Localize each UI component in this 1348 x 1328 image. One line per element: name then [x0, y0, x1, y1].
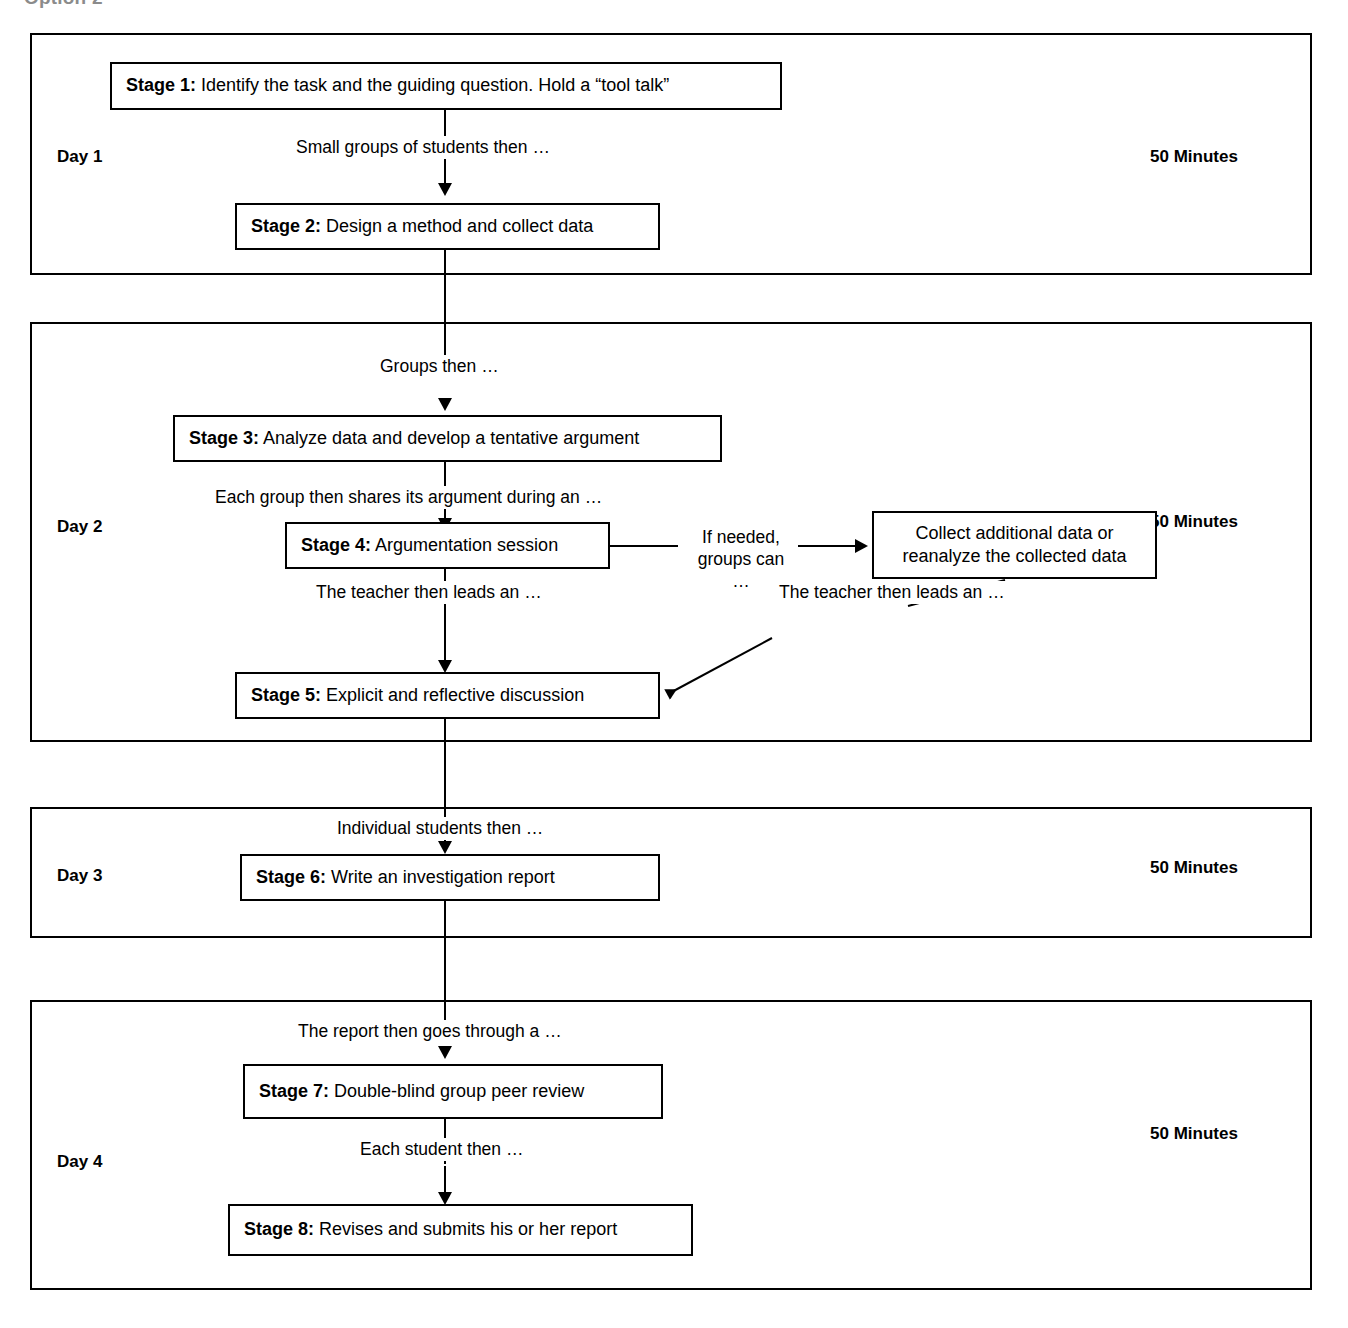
stage-box-2[interactable]: Stage 2: Design a method and collect dat…: [235, 203, 660, 250]
stage-5-body: Explicit and reflective discussion: [321, 685, 584, 705]
flowchart-canvas: Option 2 Day 1 50 Minutes Stage 1: Ident…: [0, 0, 1348, 1328]
stage-4-body: Argumentation session: [371, 535, 558, 555]
branch-label-line1: If needed,: [702, 527, 780, 547]
stage-2-text: Stage 2: Design a method and collect dat…: [237, 215, 607, 238]
stage-1-key: Stage 1:: [126, 75, 196, 95]
stage-4-key: Stage 4:: [301, 535, 371, 555]
stage-3-key: Stage 3:: [189, 428, 259, 448]
side-box-collect-data[interactable]: Collect additional data or reanalyze the…: [872, 511, 1157, 579]
branch-label-line2: groups can …: [698, 549, 785, 591]
connector-label-8: The report then goes through a …: [295, 1020, 565, 1043]
stage-5-text: Stage 5: Explicit and reflective discuss…: [237, 684, 598, 707]
branch-arrowhead-right: [855, 539, 868, 553]
page-title: Option 2: [24, 0, 103, 9]
side-box-line1: Collect additional data or: [915, 523, 1113, 543]
stage-8-body: Revises and submits his or her report: [314, 1219, 617, 1239]
stage-box-8[interactable]: Stage 8: Revises and submits his or her …: [228, 1204, 693, 1256]
day-label-2: Day 2: [57, 517, 102, 537]
stage-box-6[interactable]: Stage 6: Write an investigation report: [240, 854, 660, 901]
stage-2-body: Design a method and collect data: [321, 216, 593, 236]
stage-box-4[interactable]: Stage 4: Argumentation session: [285, 522, 610, 569]
stage-3-text: Stage 3: Analyze data and develop a tent…: [175, 427, 653, 450]
connector-arrowhead-7: [438, 841, 452, 854]
day-label-3: Day 3: [57, 866, 102, 886]
branch-line-left: [610, 545, 678, 547]
stage-4-text: Stage 4: Argumentation session: [287, 534, 572, 557]
minutes-label-2: 50 Minutes: [1150, 512, 1238, 532]
stage-8-text: Stage 8: Revises and submits his or her …: [230, 1218, 631, 1241]
connector-label-1: Small groups of students then …: [293, 136, 553, 159]
stage-5-key: Stage 5:: [251, 685, 321, 705]
stage-1-body: Identify the task and the guiding questi…: [196, 75, 669, 95]
stage-6-text: Stage 6: Write an investigation report: [242, 866, 569, 889]
stage-7-text: Stage 7: Double-blind group peer review: [245, 1080, 598, 1103]
day-panel-3: [30, 807, 1312, 938]
day-label-4: Day 4: [57, 1152, 102, 1172]
connector-label-7: Individual students then …: [334, 817, 546, 840]
connector-arrowhead-8: [438, 1046, 452, 1059]
stage-box-5[interactable]: Stage 5: Explicit and reflective discuss…: [235, 672, 660, 719]
stage-7-body: Double-blind group peer review: [329, 1081, 584, 1101]
connector-line-day1-day2: [444, 250, 446, 370]
stage-1-text: Stage 1: Identify the task and the guidi…: [112, 74, 683, 97]
connector-label-6: The teacher then leads an …: [776, 581, 1008, 604]
connector-label-2: Groups then …: [377, 355, 502, 378]
stage-7-key: Stage 7:: [259, 1081, 329, 1101]
stage-8-key: Stage 8:: [244, 1219, 314, 1239]
minutes-label-3: 50 Minutes: [1150, 858, 1238, 878]
stage-box-1[interactable]: Stage 1: Identify the task and the guidi…: [110, 62, 782, 110]
stage-box-3[interactable]: Stage 3: Analyze data and develop a tent…: [173, 415, 722, 462]
side-box-text: Collect additional data or reanalyze the…: [874, 522, 1155, 568]
stage-6-key: Stage 6:: [256, 867, 326, 887]
minutes-label-1: 50 Minutes: [1150, 147, 1238, 167]
connector-label-5: The teacher then leads an …: [313, 581, 545, 604]
stage-6-body: Write an investigation report: [326, 867, 555, 887]
side-box-line2: reanalyze the collected data: [902, 546, 1126, 566]
stage-box-7[interactable]: Stage 7: Double-blind group peer review: [243, 1064, 663, 1119]
connector-line-day3-day4: [444, 901, 446, 1035]
connector-label-9: Each student then …: [357, 1138, 526, 1161]
minutes-label-4: 50 Minutes: [1150, 1124, 1238, 1144]
branch-line-right: [795, 545, 857, 547]
connector-arrowhead-1: [438, 183, 452, 196]
connector-label-3: Each group then shares its argument duri…: [212, 486, 605, 509]
connector-arrowhead-2: [438, 398, 452, 411]
stage-2-key: Stage 2:: [251, 216, 321, 236]
day-label-1: Day 1: [57, 147, 102, 167]
stage-3-body: Analyze data and develop a tentative arg…: [259, 428, 639, 448]
